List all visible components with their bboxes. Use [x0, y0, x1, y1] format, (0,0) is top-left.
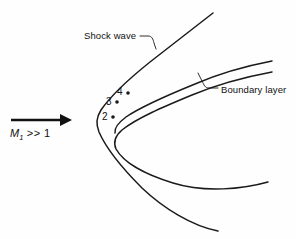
freestream-mach-label: M1 >> 1: [10, 128, 51, 142]
mach-relation: >> 1: [27, 127, 51, 139]
station-dot-3: [115, 100, 119, 104]
shock-wave-curve: [97, 13, 218, 231]
station-label-4: 4: [117, 87, 123, 97]
station-dot-4: [126, 91, 130, 95]
station-label-2: 2: [102, 112, 108, 122]
station-dot-2: [111, 115, 115, 119]
shock-wave-label: Shock wave: [84, 31, 136, 41]
shock-wave-leader-line: [140, 36, 156, 49]
boundary-layer-label: Boundary layer: [221, 85, 286, 95]
station-label-3: 3: [106, 97, 112, 107]
freestream-arrow-head: [60, 114, 72, 126]
mach-subscript: 1: [19, 133, 23, 142]
figure-canvas: Shock wave Boundary layer 2 3 4 M1 >> 1: [0, 0, 296, 239]
mach-symbol: M: [10, 127, 19, 139]
diagram-vector-layer: [0, 0, 296, 239]
